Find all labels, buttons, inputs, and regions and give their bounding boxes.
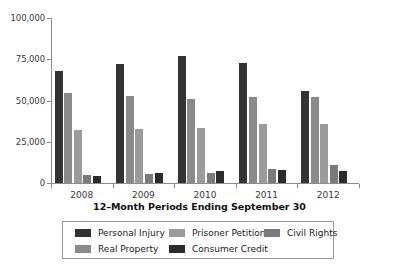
bar <box>207 173 215 183</box>
legend-label: Consumer Credit <box>192 244 268 254</box>
y-tick-label: 50,000 <box>16 96 45 106</box>
legend-item[interactable]: Civil Rights <box>264 225 337 241</box>
bar <box>55 71 63 183</box>
x-tick-label-2012: 2012 <box>317 190 340 200</box>
bar <box>145 174 153 183</box>
y-tick-label: 25,000 <box>16 137 45 147</box>
legend: Personal InjuryPrisoner PetitionsCivil R… <box>62 221 334 259</box>
bar <box>93 176 101 183</box>
bar <box>216 171 224 183</box>
bar <box>178 56 186 183</box>
x-tick-mark <box>51 184 52 188</box>
x-tick-label-2008: 2008 <box>70 190 93 200</box>
legend-label: Real Property <box>98 244 158 254</box>
legend-label: Prisoner Petitions <box>192 228 270 238</box>
bar-group-2010 <box>178 18 224 183</box>
legend-row: Real PropertyConsumer Credit <box>63 241 333 257</box>
bar <box>259 124 267 183</box>
y-tick-mark <box>47 59 51 60</box>
bar <box>187 99 195 183</box>
bar <box>197 128 205 183</box>
legend-item[interactable]: Consumer Credit <box>169 241 268 257</box>
x-axis-title: 12–Month Periods Ending September 30 <box>0 201 399 212</box>
bar <box>320 124 328 183</box>
x-axis-line <box>51 183 359 184</box>
y-axis-line <box>51 18 52 184</box>
x-tick-mark <box>174 184 175 188</box>
x-tick-mark <box>236 184 237 188</box>
bar <box>126 96 134 183</box>
bar <box>83 175 91 183</box>
bar <box>116 64 124 183</box>
y-tick-mark <box>47 101 51 102</box>
y-tick-label: 0 <box>40 178 45 188</box>
legend-item[interactable]: Personal Injury <box>75 225 165 241</box>
legend-row: Personal InjuryPrisoner PetitionsCivil R… <box>63 225 333 241</box>
bar <box>339 171 347 183</box>
bar-group-2011 <box>239 18 285 183</box>
legend-item[interactable]: Real Property <box>75 241 158 257</box>
legend-swatch-icon <box>75 245 91 253</box>
legend-swatch-icon <box>169 245 185 253</box>
x-tick-mark <box>113 184 114 188</box>
y-tick-label: 75,000 <box>16 54 45 64</box>
x-tick-label-2009: 2009 <box>132 190 155 200</box>
bar <box>330 165 338 183</box>
y-tick-mark <box>47 18 51 19</box>
bar <box>74 130 82 183</box>
bar-chart: 100,000 75,000 50,000 25,000 0 200820092… <box>0 0 399 271</box>
plot-area: 100,000 75,000 50,000 25,000 0 200820092… <box>51 18 359 184</box>
legend-swatch-icon <box>169 229 185 237</box>
y-tick-mark <box>47 142 51 143</box>
legend-label: Personal Injury <box>98 228 165 238</box>
x-tick-label-2011: 2011 <box>255 190 278 200</box>
bar <box>311 97 319 183</box>
bar <box>301 91 309 183</box>
legend-item[interactable]: Prisoner Petitions <box>169 225 270 241</box>
legend-label: Civil Rights <box>287 228 337 238</box>
bar <box>249 97 257 183</box>
bar <box>135 129 143 183</box>
bar-group-2009 <box>116 18 162 183</box>
bar <box>155 173 163 183</box>
bar <box>64 93 72 183</box>
legend-swatch-icon <box>264 229 280 237</box>
bar <box>239 63 247 183</box>
bar-group-2012 <box>301 18 347 183</box>
legend-swatch-icon <box>75 229 91 237</box>
x-tick-label-2010: 2010 <box>194 190 217 200</box>
bar <box>268 169 276 183</box>
y-tick-label: 100,000 <box>11 13 45 23</box>
x-tick-mark <box>359 184 360 188</box>
bar <box>278 170 286 183</box>
bar-group-2008 <box>55 18 101 183</box>
x-tick-mark <box>297 184 298 188</box>
